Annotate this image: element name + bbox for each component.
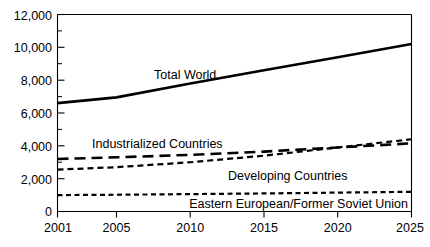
x-axis-label-2001: 2001 <box>44 221 72 235</box>
y-axis-label-8000: 8,000 <box>21 74 52 88</box>
y-axis-label-12000: 12,000 <box>14 9 52 23</box>
x-axis-label-2010: 2010 <box>176 221 204 235</box>
y-axis-label-0: 0 <box>45 205 52 219</box>
x-axis-label-2020: 2020 <box>324 221 352 235</box>
y-axis-label-6000: 6,000 <box>21 107 52 121</box>
y-axis-label-10000: 10,000 <box>14 41 52 55</box>
y-axis-label-2000: 2,000 <box>21 173 52 187</box>
line-chart: 12,000 10,000 8,000 6,000 4,000 2,000 0 … <box>0 0 430 247</box>
x-axis-label-2015: 2015 <box>250 221 278 235</box>
annotation-total-world: Total World <box>154 68 216 82</box>
chart-figure: 12,000 10,000 8,000 6,000 4,000 2,000 0 … <box>0 0 430 247</box>
annotation-industrialized-countries: Industrialized Countries <box>92 137 223 151</box>
annotation-developing-countries: Developing Countries <box>228 169 348 183</box>
x-axis-label-2025: 2025 <box>396 221 424 235</box>
x-axis-label-2005: 2005 <box>103 221 131 235</box>
y-axis-label-4000: 4,000 <box>21 140 52 154</box>
annotation-eastern-european-former-soviet-union: Eastern European/Former Soviet Union <box>189 197 408 211</box>
